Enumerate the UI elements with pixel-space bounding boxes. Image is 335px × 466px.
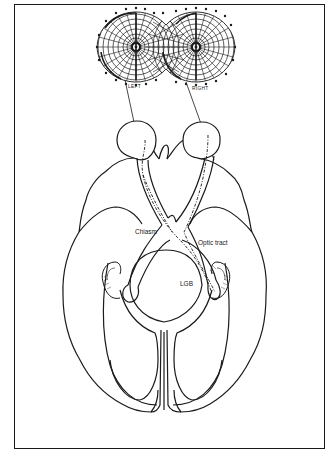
- left-field-label: LEFT: [128, 84, 141, 89]
- left-eye: [117, 121, 156, 160]
- right-eye: [183, 122, 220, 159]
- chiasm-label: Chiasm: [135, 228, 157, 235]
- visual-field-grids: [86, 0, 246, 94]
- right-field-label: RIGHT: [192, 86, 208, 91]
- brain-outline: [63, 140, 266, 412]
- lgb-label: LGB: [180, 280, 193, 287]
- optic-tract-label: Optic tract: [198, 239, 228, 246]
- visual-pathway-diagram: [0, 0, 335, 466]
